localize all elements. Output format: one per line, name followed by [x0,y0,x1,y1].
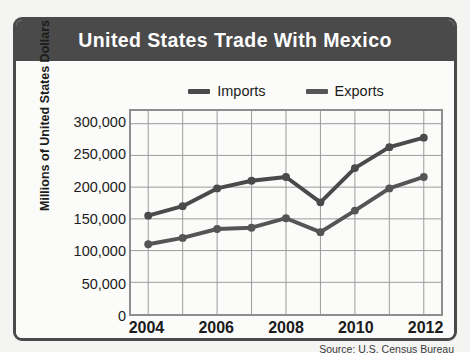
line-swatch-icon [306,89,328,94]
legend-label: Imports [217,83,265,99]
x-tick-label: 2010 [338,319,374,337]
page-title: United States Trade With Mexico [78,29,391,52]
y-tick-label: 200,000 [74,179,126,195]
data-point-marker [351,207,359,215]
y-tick-label: 0 [118,308,126,324]
y-tick-label: 250,000 [74,146,126,162]
data-point-marker [316,198,324,206]
data-point-marker [420,134,428,142]
chart-title-banner: United States Trade With Mexico [16,20,454,61]
data-point-marker [385,184,393,192]
plot-svg [131,111,441,314]
x-tick-label: 2006 [198,319,234,337]
data-point-marker [213,225,221,233]
data-point-marker [385,143,393,151]
data-point-marker [420,173,428,181]
x-tick-label: 2004 [129,319,165,337]
source-note: Source: U.S. Census Bureau [0,343,470,355]
chart-body: Millions of United States Dollars 050,00… [16,61,454,338]
y-tick-label: 150,000 [74,211,126,227]
data-point-marker [248,177,256,185]
chart-legend: ImportsExports [129,83,443,99]
data-point-marker [282,214,290,222]
data-point-marker [144,240,152,248]
line-swatch-icon [188,89,210,94]
y-tick-label: 100,000 [74,243,126,259]
y-tick-label: 300,000 [74,114,126,130]
data-point-marker [282,173,290,181]
data-point-marker [248,224,256,232]
x-axis-tick-labels: 20042006200820102012 [129,319,443,341]
y-tick-label: 50,000 [82,276,126,292]
plot-area [129,109,443,316]
x-tick-label: 2012 [408,319,444,337]
data-point-marker [179,234,187,242]
chart-figure-frame: United States Trade With Mexico Millions… [13,17,457,341]
data-point-marker [213,184,221,192]
data-point-marker [316,228,324,236]
legend-label: Exports [335,83,384,99]
data-point-marker [144,212,152,220]
legend-item-exports: Exports [306,83,384,99]
grid-vertical [148,111,424,314]
data-point-marker [179,202,187,210]
legend-item-imports: Imports [188,83,265,99]
x-tick-label: 2008 [268,319,304,337]
y-axis-tick-labels: 050,000100,000150,000200,000250,000300,0… [44,61,126,338]
data-point-marker [351,164,359,172]
